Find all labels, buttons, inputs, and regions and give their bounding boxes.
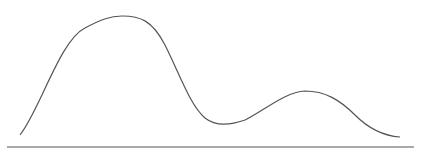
density-curve (20, 16, 400, 137)
density-chart (0, 0, 423, 153)
